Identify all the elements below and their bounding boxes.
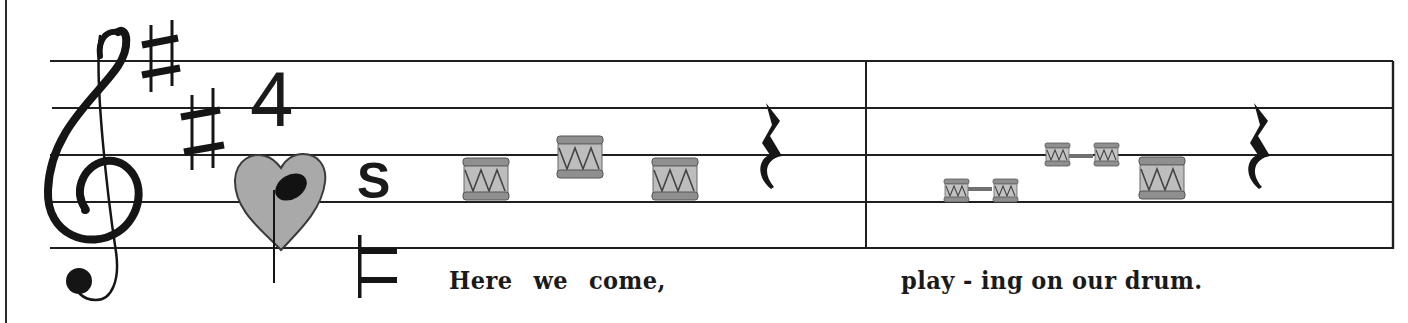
- measure-1: [463, 103, 782, 200]
- treble-clef-icon: [48, 31, 139, 300]
- s-mark-icon: [358, 235, 397, 298]
- sharp-icon: [142, 20, 180, 92]
- drum-note-icon: [463, 158, 509, 200]
- drum-eighth-pair-icon: [944, 179, 1018, 202]
- drum-note-icon: [557, 136, 603, 178]
- sharp-icon: [181, 88, 224, 170]
- quarter-rest-icon: [760, 103, 782, 189]
- heart-quarter-note-icon: [235, 154, 325, 283]
- measure-2: [944, 103, 1270, 202]
- drum-note-icon: [652, 158, 698, 200]
- lyrics-measure-1: Here we come,: [449, 266, 666, 295]
- drum-eighth-pair-icon: [1045, 143, 1119, 166]
- drum-note-icon: [1139, 157, 1185, 199]
- lyrics-measure-2: play - ing on our drum.: [901, 266, 1203, 295]
- quarter-rest-icon: [1248, 103, 1270, 189]
- time-signature-top: 4: [250, 60, 293, 138]
- time-signature-s-mark: S: [357, 156, 390, 206]
